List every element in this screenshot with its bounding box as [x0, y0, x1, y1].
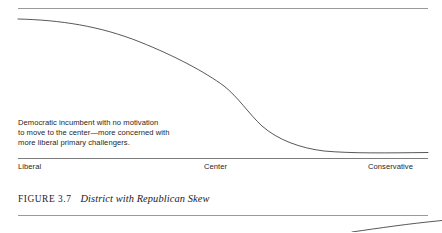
figure-caption: FIGURE 3.7District with Republican Skew: [18, 188, 209, 206]
axis-label-conservative: Conservative: [368, 162, 413, 171]
next-figure-curve-fragment: [352, 221, 442, 233]
annotation-line-1: Democratic incumbent with no motivation: [18, 118, 169, 128]
figure-caption-number: FIGURE 3.7: [18, 194, 71, 204]
annotation-line-2: to move to the center—more concerned wit…: [18, 128, 169, 138]
axis-label-liberal: Liberal: [18, 162, 41, 171]
page-rule-bottom: [18, 215, 428, 216]
chart-annotation: Democratic incumbent with no motivation …: [18, 118, 169, 149]
axis-label-center: Center: [204, 162, 227, 171]
annotation-line-3: more liberal primary challengers.: [18, 138, 169, 148]
figure-caption-title: District with Republican Skew: [80, 193, 209, 204]
figure-page: Democratic incumbent with no motivation …: [0, 0, 442, 232]
